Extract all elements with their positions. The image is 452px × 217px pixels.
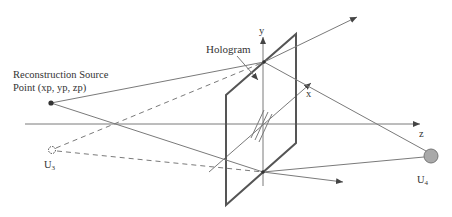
x-axis-label: x <box>306 88 312 99</box>
u4-point <box>424 149 438 163</box>
ray-top-to-far <box>264 17 357 62</box>
ray-bottom-to-right <box>263 172 343 182</box>
u3-label: U3 <box>44 159 56 172</box>
ray-top-to-u4 <box>264 62 426 151</box>
origin-hatch <box>251 110 272 142</box>
ray-bottom-to-u4 <box>263 157 424 172</box>
hologram-label: Hologram <box>206 43 251 55</box>
diagram-canvas: Hologram Reconstruction Source Point (xp… <box>0 0 452 217</box>
source-label-line1: Reconstruction Source <box>13 69 109 80</box>
hologram-plate <box>226 34 296 205</box>
source-label-line2: Point (xp, yp, zp) <box>13 82 87 94</box>
hologram-diagram: Hologram Reconstruction Source Point (xp… <box>0 0 452 217</box>
u4-label: U4 <box>417 174 429 187</box>
u4-label-sub: 4 <box>425 179 429 187</box>
hologram-top-point <box>262 60 266 64</box>
hologram-bottom-point <box>261 170 265 174</box>
z-axis-label: z <box>419 128 424 139</box>
y-axis-label: y <box>259 25 265 36</box>
u3-label-sub: 3 <box>52 164 56 172</box>
source-point-dot <box>48 100 53 105</box>
u3-point <box>49 147 56 154</box>
